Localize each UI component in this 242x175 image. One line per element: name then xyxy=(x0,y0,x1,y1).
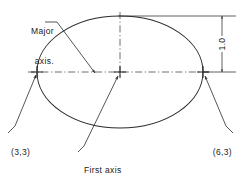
major-axis-label-line2: axis. xyxy=(2,56,54,66)
ellipse-diagram: Major axis. (3,3) Axis endpoint 1 (6,3) … xyxy=(0,0,242,175)
axis-midpoint-line1: First axis xyxy=(84,165,164,175)
endpoint-2-leader-line xyxy=(205,76,233,133)
dimension-value-label: 1.0 xyxy=(217,34,227,54)
axis-endpoint-2-coordinate: (6,3) xyxy=(155,147,232,157)
axis-endpoint-2-label: (6,3) Axis endpoint 2 xyxy=(155,127,232,175)
axis-midpoint-label: First axis midpoint xyxy=(84,145,164,175)
major-axis-label: Major axis. xyxy=(2,6,54,86)
axis-endpoint-1-coordinate: (3,3) xyxy=(11,147,89,157)
axis-endpoint-1-label: (3,3) Axis endpoint 1 xyxy=(11,127,89,175)
axis-midpoint-marker xyxy=(114,66,126,78)
major-axis-label-line1: Major xyxy=(2,26,54,36)
